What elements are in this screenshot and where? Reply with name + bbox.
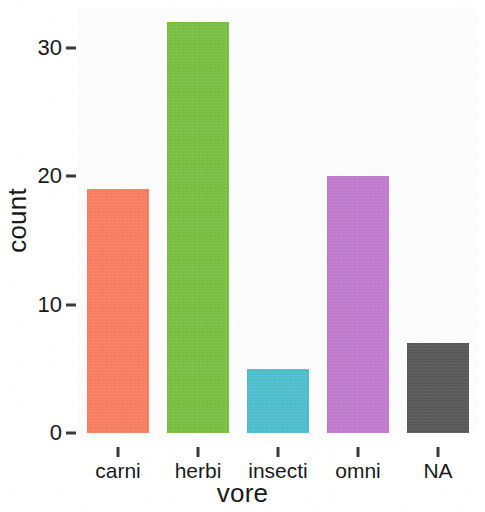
x-tick-label-carni: carni <box>95 459 141 483</box>
x-axis-title: vore <box>0 478 485 509</box>
x-tick-label-insecti: insecti <box>248 459 308 483</box>
x-tick-mark-carni <box>117 447 120 457</box>
x-tick-label-herbi: herbi <box>175 459 222 483</box>
bar-omni <box>327 176 389 433</box>
y-tick-label-0: 0 <box>22 420 62 446</box>
y-tick-mark-10 <box>66 303 76 306</box>
y-tick-label-20: 20 <box>22 163 62 189</box>
bar-herbi <box>167 22 229 433</box>
x-tick-mark-omni <box>357 447 360 457</box>
x-tick-mark-insecti <box>277 447 280 457</box>
y-tick-mark-20 <box>66 175 76 178</box>
plot-panel <box>78 8 478 433</box>
x-tick-mark-na <box>437 447 440 457</box>
y-tick-label-10: 10 <box>22 292 62 318</box>
y-axis-title: count <box>0 0 34 440</box>
bar-na <box>407 343 469 433</box>
x-tick-mark-herbi <box>197 447 200 457</box>
x-tick-label-na: NA <box>423 459 452 483</box>
y-axis-title-label: count <box>2 188 33 253</box>
y-tick-mark-30 <box>66 46 76 49</box>
bar-carni <box>87 189 149 433</box>
y-tick-label-30: 30 <box>22 35 62 61</box>
bar-chart: count vore 0102030 carniherbiinsectiomni… <box>0 0 485 512</box>
y-tick-mark-0 <box>66 432 76 435</box>
bar-insecti <box>247 369 309 433</box>
x-tick-label-omni: omni <box>335 459 381 483</box>
